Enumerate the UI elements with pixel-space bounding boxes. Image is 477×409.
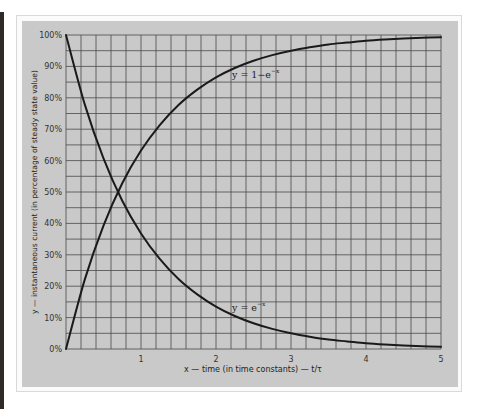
y-tick-label: 80% (44, 94, 62, 103)
x-axis-label: x — time (in time constants) — t/τ (184, 365, 322, 374)
y-tick-label: 10% (44, 314, 62, 323)
y-axis-label: y — instantaneous current (in percentage… (30, 70, 39, 314)
rl-time-constant-chart: 0%10%20%30%40%50%60%70%80%90%100% 12345 … (0, 0, 477, 409)
x-tick-label: 5 (438, 355, 443, 364)
y-tick-label: 70% (44, 125, 62, 134)
y-tick-label: 40% (44, 219, 62, 228)
x-tick-label: 1 (138, 355, 143, 364)
rising-curve-label: y = 1−e−x (231, 67, 280, 80)
x-axis-ticks: 12345 (138, 355, 443, 364)
y-tick-label: 0% (49, 345, 62, 354)
y-tick-label: 20% (44, 282, 62, 291)
y-axis-ticks: 0%10%20%30%40%50%60%70%80%90%100% (39, 31, 62, 354)
x-tick-label: 2 (213, 355, 218, 364)
x-tick-label: 3 (288, 355, 293, 364)
y-tick-label: 90% (44, 62, 62, 71)
y-tick-label: 50% (44, 188, 62, 197)
y-tick-label: 30% (44, 251, 62, 260)
y-tick-label: 60% (44, 157, 62, 166)
x-tick-label: 4 (363, 355, 368, 364)
y-tick-label: 100% (39, 31, 62, 40)
